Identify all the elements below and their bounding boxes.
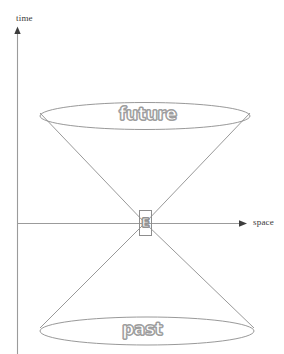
future-region-label: future: [119, 106, 177, 123]
time-axis-label: time: [16, 14, 33, 23]
event-label-box: E: [139, 210, 152, 236]
event-label: E: [141, 217, 149, 229]
lightcone-canvas: [0, 0, 284, 354]
space-axis-arrowhead: [239, 220, 247, 226]
lightcone-diagram: time space future past E: [0, 0, 284, 354]
past-cone-right-edge: [145, 223, 254, 328]
past-region-label: past: [122, 321, 163, 338]
past-cone-left-edge: [40, 223, 145, 328]
space-axis-label: space: [253, 218, 274, 227]
time-axis-arrowhead: [14, 27, 20, 35]
